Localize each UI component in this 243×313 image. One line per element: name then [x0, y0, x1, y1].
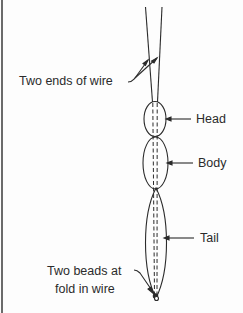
wire-ends-leader: [128, 78, 135, 82]
label-beads-line1: Two beads at: [47, 264, 121, 278]
wire-end-right: [158, 7, 163, 102]
diagram-canvas: Two ends of wire Head Body Tail Two bead…: [0, 0, 243, 313]
arrowhead-icon: [143, 60, 148, 66]
tail-lens: [146, 188, 167, 298]
body-oval: [143, 137, 168, 189]
label-wire-ends: Two ends of wire: [19, 74, 113, 88]
arrowhead-icon: [164, 236, 169, 240]
label-tail: Tail: [200, 231, 219, 245]
label-beads-line2: fold in wire: [55, 282, 115, 296]
bead-icon: [155, 297, 159, 301]
label-head: Head: [196, 112, 226, 126]
head-oval: [144, 102, 166, 137]
wire-end-left: [146, 7, 153, 102]
label-body: Body: [198, 156, 227, 170]
arrowhead-icon: [166, 117, 171, 121]
arrowhead-icon: [152, 58, 158, 63]
inner-wire-left: [153, 103, 155, 296]
